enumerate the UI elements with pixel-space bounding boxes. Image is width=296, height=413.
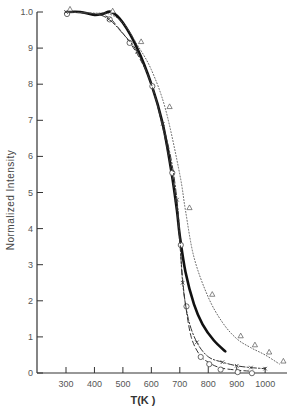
series-layer bbox=[64, 6, 286, 375]
y-tick-label: 4 bbox=[28, 224, 33, 234]
y-tick-label: 8 bbox=[28, 79, 33, 89]
triangle-marker bbox=[187, 205, 192, 210]
y-tick-label: 5 bbox=[28, 188, 33, 198]
y-tick-label: 9 bbox=[28, 43, 33, 53]
y-axis: 01234567891.0 bbox=[20, 7, 43, 378]
circle-marker bbox=[249, 371, 254, 376]
series-circle-dashed bbox=[64, 11, 254, 375]
circle-marker bbox=[198, 354, 203, 359]
circle-marker bbox=[207, 362, 212, 367]
y-tick-label: 6 bbox=[28, 151, 33, 161]
x-tick-label: 300 bbox=[58, 379, 73, 389]
y-tick-label: 3 bbox=[28, 260, 33, 270]
y-axis-title: Normalized Intensity bbox=[5, 150, 16, 251]
x-tick-label: 1000 bbox=[255, 379, 275, 389]
x-tick-label: 600 bbox=[144, 379, 159, 389]
series-x-dash-dot bbox=[64, 10, 267, 370]
x-tick-label: 400 bbox=[87, 379, 102, 389]
series-none-solid-thick bbox=[66, 12, 225, 352]
triangle-marker bbox=[210, 292, 215, 297]
y-tick-label: 1.0 bbox=[20, 7, 33, 17]
series-triangle-dotted bbox=[66, 6, 286, 364]
x-axis: 3004005006007008009001000 bbox=[37, 367, 287, 389]
triangle-marker bbox=[139, 39, 144, 44]
x-tick-label: 700 bbox=[172, 379, 187, 389]
x-tick-label: 900 bbox=[229, 379, 244, 389]
y-tick-label: 2 bbox=[28, 296, 33, 306]
y-tick-label: 0 bbox=[28, 368, 33, 378]
triangle-marker bbox=[167, 104, 172, 109]
triangle-marker bbox=[252, 342, 257, 347]
triangle-marker bbox=[267, 349, 272, 354]
circle-marker bbox=[235, 370, 240, 375]
triangle-marker bbox=[238, 333, 243, 338]
x-tick-label: 800 bbox=[201, 379, 216, 389]
x-marker bbox=[195, 341, 199, 345]
triangle-marker bbox=[281, 358, 286, 363]
y-tick-label: 1 bbox=[28, 332, 33, 342]
x-axis-title: T(K ) bbox=[130, 394, 155, 406]
x-tick-label: 500 bbox=[115, 379, 130, 389]
triangle-marker bbox=[67, 6, 72, 11]
circle-marker bbox=[218, 367, 223, 372]
y-tick-label: 7 bbox=[28, 115, 33, 125]
chart: 01234567891.0 3004005006007008009001000 … bbox=[0, 0, 296, 413]
